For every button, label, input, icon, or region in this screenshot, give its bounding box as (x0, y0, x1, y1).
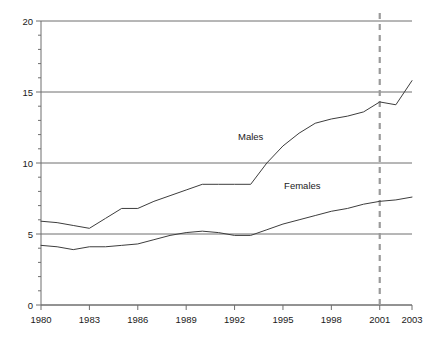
x-tick-label-1992: 1992 (224, 314, 245, 325)
x-tick-label-1989: 1989 (176, 314, 197, 325)
x-tick-label-1980: 1980 (30, 314, 51, 325)
gridlines-group (41, 21, 412, 305)
x-tick-label-1986: 1986 (127, 314, 148, 325)
x-tick-label-2001: 2001 (369, 314, 390, 325)
y-tick-label-20: 20 (22, 16, 33, 27)
series-label-males: Males (238, 131, 264, 142)
series-label-females: Females (284, 180, 321, 191)
x-tick-label-1995: 1995 (272, 314, 293, 325)
y-tick-label-5: 5 (28, 229, 33, 240)
y-tick-label-10: 10 (22, 158, 33, 169)
y-tick-label-15: 15 (22, 87, 33, 98)
chart-canvas: 05101520 1980198319861989199219951998200… (0, 0, 435, 348)
y-tick-labels-group: 05101520 (22, 16, 33, 311)
y-minor-ticks-group (36, 21, 41, 305)
x-tick-label-2003: 2003 (401, 314, 422, 325)
x-ticks-group (41, 305, 412, 310)
series-labels-group: MalesFemales (238, 131, 321, 190)
x-tick-label-1998: 1998 (321, 314, 342, 325)
series-lines-group (41, 81, 412, 250)
y-tick-label-0: 0 (28, 300, 33, 311)
line-chart: 05101520 1980198319861989199219951998200… (0, 0, 435, 348)
x-tick-label-1983: 1983 (79, 314, 100, 325)
x-tick-labels-group: 198019831986198919921995199820012003 (30, 314, 422, 325)
